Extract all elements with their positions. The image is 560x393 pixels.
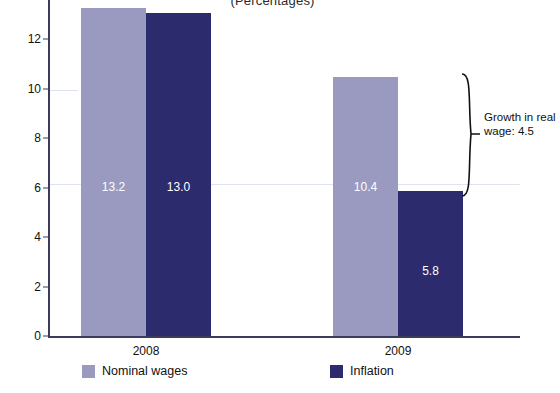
chart-legend: Nominal wages Inflation bbox=[0, 362, 545, 386]
bar-2008-nominal-wages: 13.2 bbox=[81, 8, 146, 336]
x-tick-label-2008: 2008 bbox=[86, 344, 206, 358]
bar-2009-inflation: 5.8 bbox=[398, 191, 463, 336]
x-tick-label-2009: 2009 bbox=[338, 344, 458, 358]
bar-2009-nominal-wages: 10.4 bbox=[333, 77, 398, 336]
legend-label-nominal-wages: Nominal wages bbox=[102, 364, 187, 378]
legend-item-nominal-wages: Nominal wages bbox=[82, 364, 187, 378]
bar-2008-inflation: 13.0 bbox=[146, 13, 211, 336]
annotation-line-1: Growth in real bbox=[484, 110, 560, 124]
brace-icon bbox=[460, 72, 482, 198]
y-axis bbox=[48, 0, 50, 338]
scan-artifact-line bbox=[48, 90, 78, 91]
annotation-line-2: wage: 4.5 bbox=[484, 124, 560, 138]
legend-label-inflation: Inflation bbox=[350, 364, 394, 378]
x-axis bbox=[48, 336, 520, 338]
plot-area: 0 2 4 6 8 10 12 13.2 13. bbox=[48, 0, 520, 338]
annotation-growth-real-wage: Growth in real wage: 4.5 bbox=[484, 110, 560, 138]
legend-swatch-inflation bbox=[330, 365, 343, 378]
legend-swatch-nominal-wages bbox=[82, 365, 95, 378]
legend-item-inflation: Inflation bbox=[330, 364, 394, 378]
